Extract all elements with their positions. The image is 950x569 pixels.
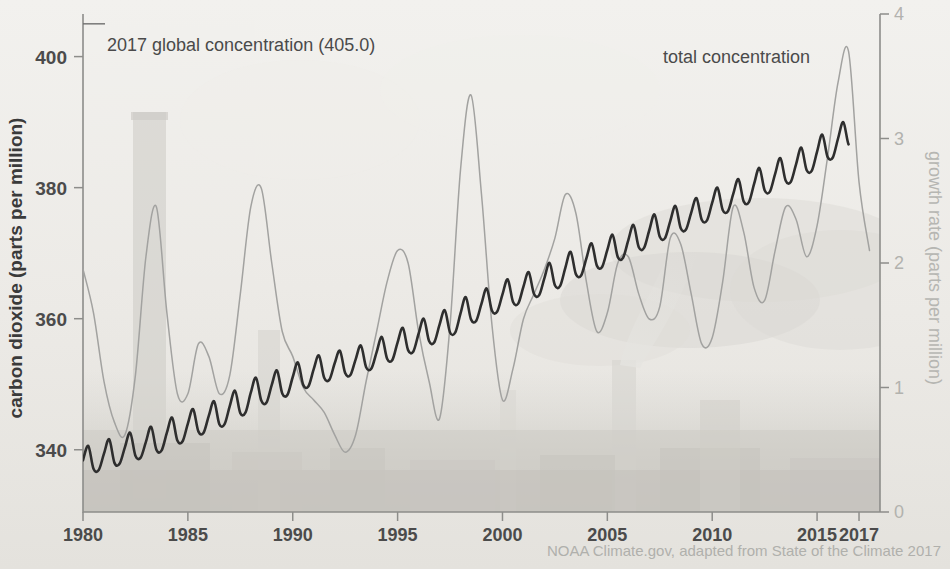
right-tick-label: 4: [894, 4, 904, 24]
left-tick-label: 400: [35, 47, 67, 68]
bottom-tick-label: 1990: [273, 525, 313, 545]
bottom-tick-label: 1995: [378, 525, 418, 545]
total-concentration-label: total concentration: [663, 47, 810, 67]
bottom-tick-label: 2000: [482, 525, 522, 545]
left-tick-label: 340: [35, 440, 67, 461]
right-tick-label: 3: [894, 129, 904, 149]
right-tick-label: 1: [894, 378, 904, 398]
bottom-tick-label: 1980: [63, 525, 103, 545]
left-tick-label: 380: [35, 178, 67, 199]
left-axis-title: carbon dioxide (parts per million): [5, 118, 26, 419]
co2-growth-rate-chart: 340360380400 01234 198019851990199520002…: [0, 0, 950, 569]
right-tick-label: 2: [894, 253, 904, 273]
global-concentration-label: 2017 global concentration (405.0): [107, 35, 375, 55]
right-axis-title: growth rate (parts per million): [925, 151, 945, 385]
right-tick-label: 0: [894, 502, 904, 522]
left-tick-label: 360: [35, 309, 67, 330]
bottom-tick-label: 1985: [168, 525, 208, 545]
credit-line: NOAA Climate.gov, adapted from State of …: [547, 542, 941, 559]
